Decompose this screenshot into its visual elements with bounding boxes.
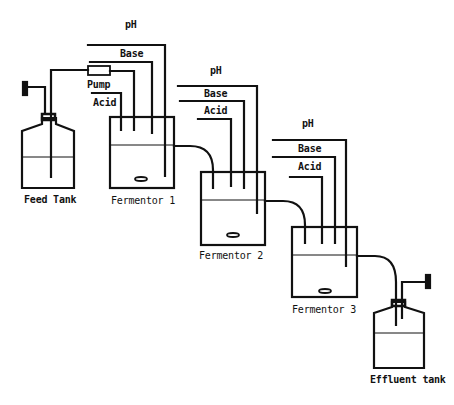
f1-ph-label: pH — [125, 19, 137, 30]
pump — [88, 66, 110, 75]
f3-base-label: Base — [298, 143, 321, 154]
f1-base-label: Base — [120, 48, 143, 59]
f3-ph-label: pH — [302, 118, 314, 129]
effluent-tank-label: Effluent tank — [370, 374, 446, 385]
f2-ph-label: pH — [210, 65, 222, 76]
feed-tank-label: Feed Tank — [24, 194, 76, 205]
fermentor-2 — [178, 86, 305, 245]
fermentor-1-label: Fermentor 1 — [111, 195, 175, 206]
effluent-tank — [374, 275, 430, 368]
pump-label: Pump — [87, 79, 110, 90]
f2-base-label: Base — [204, 88, 227, 99]
fermentor-2-label: Fermentor 2 — [199, 250, 263, 261]
f1-acid-label: Acid — [93, 97, 116, 108]
fermentor-3-label: Fermentor 3 — [292, 304, 356, 315]
fermentor-3 — [273, 140, 396, 325]
f2-acid-label: Acid — [204, 105, 227, 116]
f3-acid-label: Acid — [298, 161, 321, 172]
feed-tank — [22, 70, 88, 188]
